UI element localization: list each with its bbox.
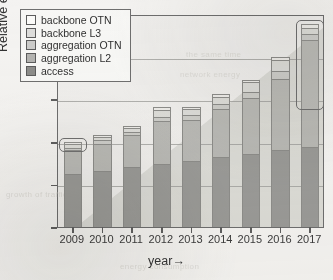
bar-2014[interactable] xyxy=(212,94,230,227)
bar-2015[interactable] xyxy=(242,80,260,227)
legend-item-backbone-l3[interactable]: backbone L3 xyxy=(26,27,122,40)
bar-2016[interactable] xyxy=(271,57,289,227)
bar-segment-aggregation-l2 xyxy=(212,109,230,157)
bar-segment-access xyxy=(123,167,141,227)
bar-2013[interactable] xyxy=(182,107,200,227)
bar-segment-backbone-l3 xyxy=(153,110,171,117)
bar-2009[interactable] xyxy=(64,142,82,227)
bar-segment-aggregation-l2 xyxy=(271,79,289,151)
legend-label: aggregation L2 xyxy=(41,52,111,64)
bar-2010[interactable] xyxy=(93,135,111,227)
x-axis-title-text: year xyxy=(148,254,172,268)
bar-segment-backbone-l3 xyxy=(242,82,260,91)
bar-segment-backbone-l3 xyxy=(271,60,289,71)
bar-segment-aggregation-l2 xyxy=(153,121,171,164)
bar-segment-access xyxy=(93,171,111,227)
bar-segment-access xyxy=(242,154,260,227)
legend-swatch-icon xyxy=(26,66,36,76)
legend-swatch-icon xyxy=(26,28,36,38)
bar-segment-backbone-l3 xyxy=(212,97,230,105)
legend-swatch-icon xyxy=(26,40,36,50)
legend-item-aggregation-otn[interactable]: aggregation OTN xyxy=(26,39,122,52)
y-axis-tick xyxy=(51,99,57,101)
y-axis-title-text: Relative energy xyxy=(0,0,10,52)
legend-label: aggregation OTN xyxy=(41,39,122,51)
legend-item-access[interactable]: access xyxy=(26,64,122,77)
bar-segment-access xyxy=(182,161,200,227)
x-tick-label-2017: 2017 xyxy=(289,233,329,245)
bar-segment-aggregation-l2 xyxy=(64,150,82,174)
bar-segment-aggregation-l2 xyxy=(93,144,111,171)
y-axis-tick xyxy=(51,227,57,229)
y-axis-title: Relative energy E/E0 xyxy=(0,0,13,52)
legend-swatch-icon xyxy=(26,15,36,25)
x-axis-title: year→ xyxy=(0,254,333,268)
bar-2012[interactable] xyxy=(153,107,171,227)
bar-segment-aggregation-l2 xyxy=(182,120,200,161)
bar-segment-access xyxy=(64,174,82,227)
legend-item-backbone-otn[interactable]: backbone OTN xyxy=(26,14,122,27)
x-axis-arrow-icon: → xyxy=(172,254,185,268)
bar-segment-access xyxy=(271,150,289,227)
legend-label: backbone L3 xyxy=(41,27,101,39)
bar-segment-aggregation-otn xyxy=(271,71,289,79)
highlight-2009 xyxy=(59,138,87,152)
y-axis-tick xyxy=(51,142,57,144)
bar-segment-aggregation-l2 xyxy=(123,135,141,167)
y-axis-tick xyxy=(51,185,57,187)
bar-segment-access xyxy=(212,157,230,227)
figure-canvas: the same time network energy growth of t… xyxy=(0,0,333,280)
bar-segment-access xyxy=(153,164,171,227)
legend-label: backbone OTN xyxy=(41,14,112,26)
legend-label: access xyxy=(41,65,74,77)
bar-segment-aggregation-l2 xyxy=(242,98,260,154)
legend-swatch-icon xyxy=(26,53,36,63)
legend: backbone OTNbackbone L3aggregation OTNag… xyxy=(20,9,131,82)
bar-2011[interactable] xyxy=(123,126,141,227)
legend-item-aggregation-l2[interactable]: aggregation L2 xyxy=(26,52,122,65)
highlight-2017 xyxy=(296,20,324,109)
bar-segment-access xyxy=(301,147,319,227)
